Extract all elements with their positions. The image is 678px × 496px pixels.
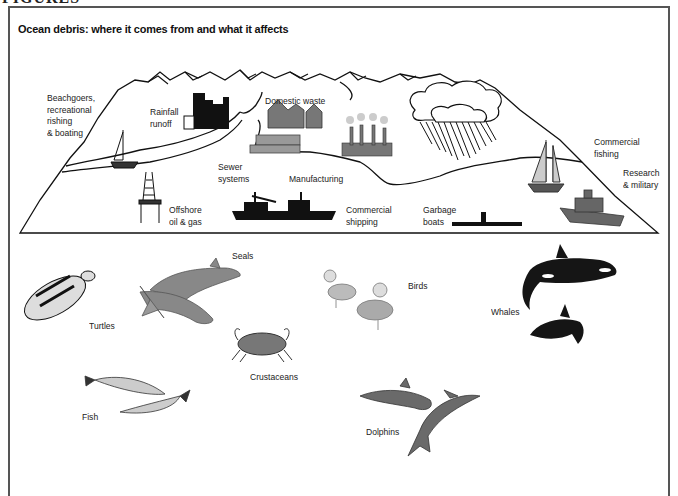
- fish-icon: [85, 376, 190, 413]
- oil-rig-icon: [139, 172, 161, 223]
- label-research-military: Research & military: [623, 167, 660, 190]
- bird-icon: [324, 270, 393, 330]
- factory-icon: [342, 125, 392, 156]
- warehouse-icon: [250, 135, 300, 153]
- label-sewer-systems: Sewer systems: [218, 161, 249, 184]
- cargo-ship-icon: [232, 192, 336, 220]
- crab-icon: [232, 329, 292, 362]
- dolphin-icon: [360, 378, 480, 456]
- fishing-boat-icon: [528, 140, 564, 192]
- label-commercial-fishing: Commercial fishing: [594, 136, 640, 159]
- label-rainfall-runoff: Rainfall runoff: [150, 106, 179, 129]
- label-birds: Birds: [408, 280, 427, 292]
- label-garbage-boats: Garbage boats: [423, 204, 456, 227]
- mountain-peaks: [148, 70, 416, 84]
- garbage-boat-icon: [452, 212, 522, 226]
- city-buildings-icon: [184, 93, 229, 129]
- label-turtles: Turtles: [89, 320, 115, 332]
- label-manufacturing: Manufacturing: [289, 173, 343, 185]
- label-whales: Whales: [491, 306, 520, 318]
- rain-cloud-icon: [410, 81, 501, 122]
- seal-icon: [140, 258, 240, 324]
- turtle-icon: [18, 267, 95, 329]
- label-crustaceans: Crustaceans: [250, 371, 298, 383]
- label-dolphins: Dolphins: [366, 426, 399, 438]
- smoke: [346, 113, 388, 124]
- whale-icon: [523, 244, 617, 344]
- label-offshore: Offshore oil & gas: [169, 204, 202, 227]
- rain-lines: [420, 122, 496, 160]
- label-commercial-shipping: Commercial shipping: [346, 204, 392, 227]
- label-beachgoers: Beachgoers, recreational rishing & boati…: [47, 92, 95, 138]
- label-fish: Fish: [82, 411, 98, 423]
- sailboat-icon: [111, 130, 138, 168]
- label-domestic-waste: Domestic waste: [265, 95, 325, 107]
- label-seals: Seals: [232, 250, 253, 262]
